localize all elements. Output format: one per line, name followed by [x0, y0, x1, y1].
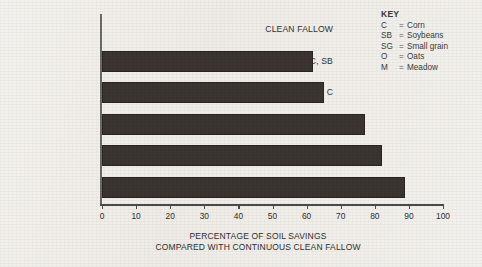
x-axis-tick	[136, 204, 137, 209]
x-axis-tick	[375, 204, 376, 209]
x-axis-tick-label: 60	[302, 211, 311, 221]
bar	[102, 82, 324, 103]
x-axis-tick	[307, 204, 308, 209]
x-axis-tick	[341, 204, 342, 209]
x-axis-tick	[204, 204, 205, 209]
x-axis-tick-label: 40	[234, 211, 243, 221]
x-axis-tick	[409, 204, 410, 209]
x-axis-tick	[443, 204, 444, 209]
bar-row: C, C, O, M, M, M	[102, 172, 443, 204]
x-axis-tick	[102, 204, 103, 209]
x-axis-tick-label: 0	[100, 211, 105, 221]
bar-row: C, SB, C, O, M, M	[102, 140, 443, 172]
x-axis-tick-label: 20	[166, 211, 175, 221]
x-axis-tick-label: 70	[336, 211, 345, 221]
x-axis-tick	[170, 204, 171, 209]
x-axis-tick-label: 30	[200, 211, 209, 221]
bar	[102, 145, 382, 166]
x-axis-tick	[273, 204, 274, 209]
x-axis-tick-label: 100	[436, 211, 450, 221]
bar-row: C, SB	[102, 46, 443, 78]
x-axis-tick-label: 80	[370, 211, 379, 221]
x-axis-tick	[238, 204, 239, 209]
x-axis-tick-label: 90	[404, 211, 413, 221]
x-axis-line	[100, 204, 443, 206]
caption-line-1: PERCENTAGE OF SOIL SAVINGS	[0, 231, 482, 242]
bar	[102, 51, 313, 72]
bar	[102, 177, 405, 198]
category-label: CLEAN FALLOW	[133, 14, 333, 46]
bar-row: CLEAN FALLOW	[102, 14, 443, 46]
x-axis-caption: PERCENTAGE OF SOIL SAVINGS COMPARED WITH…	[0, 231, 482, 253]
x-axis-tick-label: 10	[131, 211, 140, 221]
bar-row: C, C	[102, 77, 443, 109]
caption-line-2: COMPARED WITH CONTINUOUS CLEAN FALLOW	[0, 242, 482, 253]
chart-figure: KEY C = Corn SB = Soybeans SG = Small gr…	[0, 0, 482, 267]
plot-area: CLEAN FALLOW C, SB C, C C, SG, SB, SG C,…	[102, 14, 443, 204]
x-axis-tick-label: 50	[268, 211, 277, 221]
bar	[102, 114, 365, 135]
bar-row: C, SG, SB, SG	[102, 109, 443, 141]
